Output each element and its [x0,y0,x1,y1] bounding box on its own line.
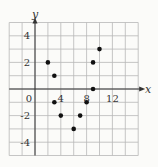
scatter-plot: xy0481242-2-4 [0,0,158,167]
data-point [52,100,57,105]
data-point [78,113,83,118]
data-point [71,127,76,132]
data-point [91,87,96,92]
x-axis-label: x [145,83,152,96]
tick-labels: xy0481242-2-4 [20,8,152,148]
x-tick-label: 4 [58,93,64,104]
data-point [84,100,89,105]
x-tick-label: 12 [106,93,119,104]
data-point [46,60,51,65]
y-tick-label: -2 [20,110,30,121]
data-point [97,47,102,52]
data-point [52,73,57,78]
y-axis-label: y [31,8,39,21]
x-tick-label: 0 [26,93,32,104]
y-tick-label: 2 [24,57,30,68]
y-tick-label: -4 [20,137,30,148]
y-tick-label: 4 [24,30,30,41]
data-point [91,60,96,65]
data-point [59,113,64,118]
